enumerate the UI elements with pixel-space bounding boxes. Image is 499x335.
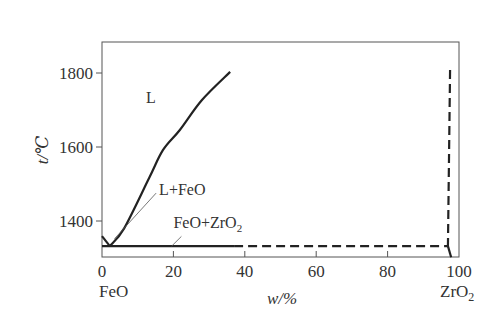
x-tick-label: 40 <box>236 262 253 281</box>
leader-line <box>172 236 182 246</box>
phase-diagram: 020406080100140016001800 LL+FeOFeO+ZrO2F… <box>0 0 499 335</box>
region-label: FeO+ZrO2 <box>173 214 242 234</box>
leader-line <box>114 193 156 239</box>
region-label: L+FeO <box>159 181 205 198</box>
series-zro2-rich-boundary <box>448 70 450 246</box>
region-label: L <box>146 89 156 106</box>
x-tick-label: 100 <box>446 262 472 281</box>
x-end-label-zro2: ZrO2 <box>440 282 474 304</box>
y-tick-label: 1600 <box>59 138 93 157</box>
plot-frame <box>102 42 459 257</box>
series-feo-liquidus <box>102 236 110 246</box>
y-tick-label: 1800 <box>59 64 93 83</box>
x-tick-label: 20 <box>165 262 182 281</box>
x-tick-label: 80 <box>379 262 396 281</box>
x-end-label-feo: FeO <box>99 282 128 301</box>
x-tick-label: 0 <box>98 262 107 281</box>
y-tick-label: 1400 <box>59 212 93 231</box>
y-axis-title: t/℃ <box>33 136 52 164</box>
x-tick-label: 60 <box>308 262 325 281</box>
x-axis-title: w/% <box>267 289 297 308</box>
series-zro2-rich-boundary-lower- <box>448 246 451 257</box>
